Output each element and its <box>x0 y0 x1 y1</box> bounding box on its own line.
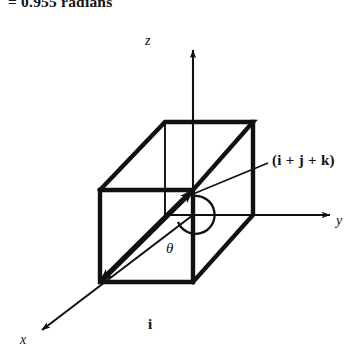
x-axis-label: x <box>20 332 26 348</box>
cube-top-face <box>100 122 253 190</box>
theta-angle-label: θ <box>166 240 173 257</box>
vector-sum-label: (i + j + k) <box>272 152 335 169</box>
diagonal-vector <box>100 190 193 282</box>
x-axis-line <box>42 215 193 330</box>
y-axis-label: y <box>336 213 342 229</box>
basis-vector-i-label: i <box>148 316 152 333</box>
z-axis-label: z <box>145 33 150 49</box>
cube-right-face <box>193 122 253 282</box>
cube-vector-diagram <box>0 0 364 361</box>
figure-root: = 0.955 radians <box>0 0 364 361</box>
